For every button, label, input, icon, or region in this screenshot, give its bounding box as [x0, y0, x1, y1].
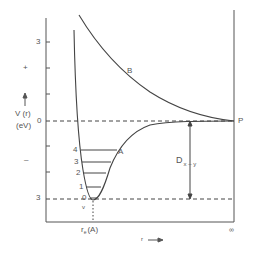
- dissociation-symbol: D: [176, 155, 183, 165]
- dissociation-subscript: x – y: [184, 161, 197, 167]
- y-ticks: [46, 42, 50, 172]
- dissociation-label: Dx – y: [176, 156, 196, 167]
- repulsive-curve-b: [79, 15, 234, 121]
- r-axis-arrow: [148, 238, 163, 242]
- vibrational-levels: [81, 150, 117, 198]
- level-label-0: 0: [82, 194, 86, 202]
- y-tick-label-0: 0: [37, 117, 41, 125]
- v-axis-arrow: [23, 93, 27, 106]
- level-label-3: 3: [74, 158, 78, 166]
- curve-label-a: A: [118, 148, 123, 156]
- curve-label-b: B: [127, 67, 132, 75]
- re-label: re(A): [81, 226, 98, 235]
- level-label-2: 2: [76, 169, 80, 177]
- x-axis-label: r: [141, 236, 143, 242]
- y-tick-label-plus: +: [23, 64, 28, 72]
- y-tick-label-3-bottom: 3: [36, 194, 40, 202]
- y-tick-label-minus: –: [24, 156, 28, 164]
- level-label-4: 4: [73, 146, 77, 154]
- bound-curve-a: [74, 30, 234, 200]
- y-axis-label: V (r): [15, 110, 31, 118]
- point-label-p: P: [238, 117, 243, 125]
- y-tick-label-3-top: 3: [36, 38, 40, 46]
- v-label: v: [82, 204, 85, 210]
- y-axis-unit: (eV): [16, 122, 31, 130]
- infinity-label: ∞: [229, 226, 234, 233]
- level-label-1: 1: [79, 183, 83, 191]
- re-unit: (A): [87, 225, 98, 234]
